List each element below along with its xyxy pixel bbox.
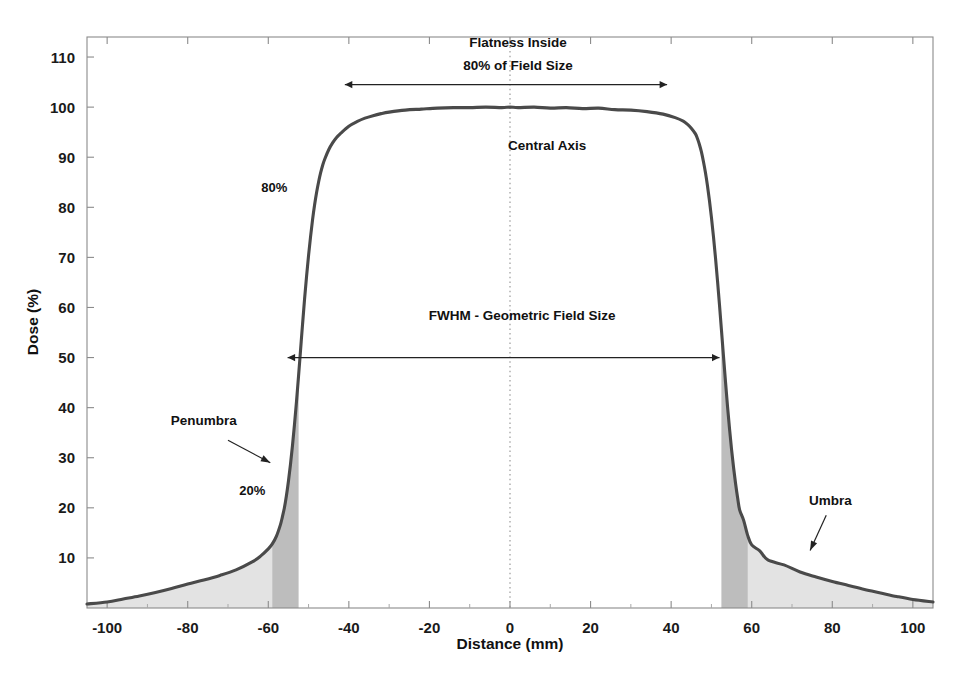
y-tick-label: 110 xyxy=(51,49,75,66)
central-axis-label: Central Axis xyxy=(508,138,586,153)
x-tick-label: 60 xyxy=(743,619,760,636)
fwhm-label: FWHM - Geometric Field Size xyxy=(429,308,616,323)
flatness-label-line2: 80% of Field Size xyxy=(463,58,573,73)
y-tick-label: 40 xyxy=(58,399,75,416)
y-tick-label: 100 xyxy=(50,99,75,116)
x-tick-label: 0 xyxy=(506,619,514,636)
y-tick-label: 80 xyxy=(58,199,75,216)
x-tick-label: -60 xyxy=(257,619,279,636)
penumbra-label: Penumbra xyxy=(171,413,238,428)
x-tick-label: -100 xyxy=(92,619,122,636)
level-80-label: 80% xyxy=(261,180,287,195)
y-axis-title: Dose (%) xyxy=(24,289,41,355)
x-tick-label: -20 xyxy=(419,619,441,636)
y-tick-label: 10 xyxy=(58,549,75,566)
umbra-label: Umbra xyxy=(809,493,852,508)
x-tick-label: 20 xyxy=(582,619,599,636)
x-tick-label: 40 xyxy=(663,619,680,636)
flatness-label-line1: Flatness Inside xyxy=(469,35,567,50)
y-tick-label: 50 xyxy=(58,349,75,366)
x-tick-label: -40 xyxy=(338,619,360,636)
x-tick-label: 100 xyxy=(900,619,925,636)
level-20-label: 20% xyxy=(239,483,265,498)
chart-background xyxy=(0,0,975,674)
y-tick-label: 20 xyxy=(58,499,75,516)
x-axis-title: Distance (mm) xyxy=(457,635,564,652)
x-tick-label: -80 xyxy=(177,619,199,636)
y-tick-label: 30 xyxy=(58,449,75,466)
y-tick-label: 70 xyxy=(58,249,75,266)
dose-profile-chart: -100-80-60-40-20020406080100102030405060… xyxy=(0,0,975,674)
y-tick-label: 60 xyxy=(58,299,75,316)
y-tick-label: 90 xyxy=(58,149,75,166)
x-tick-label: 80 xyxy=(824,619,841,636)
dose-profile-figure: -100-80-60-40-20020406080100102030405060… xyxy=(0,0,975,674)
